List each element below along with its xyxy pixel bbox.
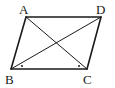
vertex-label-b: B [5,72,14,87]
vertex-label-c: C [83,72,92,87]
vertex-label-a: A [19,2,29,17]
angle-mark-c [78,65,80,67]
parallelogram-diagram: A D B C [0,0,115,88]
vertex-label-d: D [96,2,105,17]
side-dc [87,17,101,69]
angle-mark-b [21,65,23,67]
